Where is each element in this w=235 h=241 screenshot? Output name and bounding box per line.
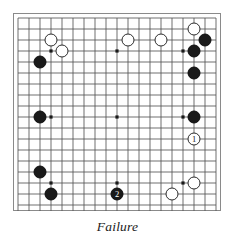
stone-white[interactable] [188, 177, 201, 190]
stone-black[interactable] [199, 34, 212, 47]
stone-black[interactable] [45, 188, 58, 201]
stone-black-move-2[interactable]: 2 [111, 188, 124, 201]
go-diagram: 12 Failure [0, 0, 235, 241]
stone-move-number: 1 [189, 134, 200, 145]
stone-black[interactable] [34, 166, 47, 179]
stone-black[interactable] [188, 45, 201, 58]
stone-black[interactable] [34, 56, 47, 69]
stone-black[interactable] [188, 67, 201, 80]
stone-white-move-1[interactable]: 1 [188, 133, 201, 146]
stone-white[interactable] [122, 34, 135, 47]
stone-white[interactable] [166, 188, 179, 201]
stone-white[interactable] [45, 34, 58, 47]
stone-black[interactable] [188, 111, 201, 124]
diagram-caption: Failure [0, 219, 235, 235]
go-board[interactable]: 12 [13, 13, 221, 211]
stone-black[interactable] [34, 111, 47, 124]
stone-move-number: 2 [112, 189, 123, 200]
stone-white[interactable] [56, 45, 69, 58]
stone-white[interactable] [155, 34, 168, 47]
stone-white[interactable] [188, 23, 201, 36]
